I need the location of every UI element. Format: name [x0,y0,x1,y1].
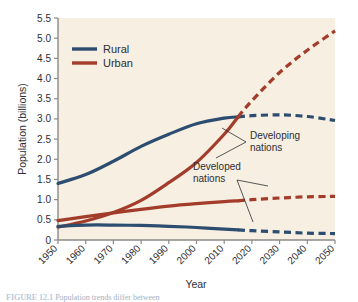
y-tick-label-2.0: 2.0 [37,154,51,165]
y-tick-label-1.0: 1.0 [37,194,51,205]
developing-nations-label-line1: Developing [250,130,300,141]
x-axis-tick-labels: 1950196019701980199020002010202020302040… [36,242,337,266]
figure-caption-prefix: FIGURE 12.1 [6,293,53,302]
x-tick-label-2000: 2000 [174,242,198,266]
figure-caption: FIGURE 12.1 Population trends differ bet… [6,293,356,302]
x-tick-label-2020: 2020 [230,242,254,266]
legend-label-rural: Rural [103,43,129,55]
y-axis-title: Population (billions) [16,83,28,175]
y-tick-label-4.0: 4.0 [37,73,51,84]
y-tick-label-5.5: 5.5 [37,13,51,24]
x-tick-label-2030: 2030 [258,242,282,266]
x-tick-label-2050: 2050 [313,242,337,266]
x-tick-label-1990: 1990 [147,242,171,266]
x-axis-title: Year [185,278,207,290]
y-axis-tick-labels: 00.51.01.52.02.53.03.54.04.55.05.5 [37,13,51,246]
legend-label-urban: Urban [103,57,133,69]
y-tick-label-4.5: 4.5 [37,53,51,64]
figure-caption-body: Population trends differ between [55,293,160,302]
y-tick-label-0.5: 0.5 [37,214,51,225]
x-tick-label-1970: 1970 [91,242,115,266]
x-tick-label-1980: 1980 [119,242,143,266]
y-tick-label-3.0: 3.0 [37,113,51,124]
developed-nations-label-line1: Developed [193,161,241,172]
y-tick-label-1.5: 1.5 [37,174,51,185]
developing-nations-label-line2: nations [250,142,282,153]
y-tick-label-5.0: 5.0 [37,33,51,44]
x-tick-label-1950: 1950 [36,242,60,266]
plot-background [58,18,335,240]
x-tick-label-1960: 1960 [64,242,88,266]
x-tick-label-2040: 2040 [285,242,309,266]
y-tick-label-2.5: 2.5 [37,134,51,145]
developed-nations-label-line2: nations [193,173,225,184]
y-tick-label-3.5: 3.5 [37,93,51,104]
x-tick-label-2010: 2010 [202,242,226,266]
